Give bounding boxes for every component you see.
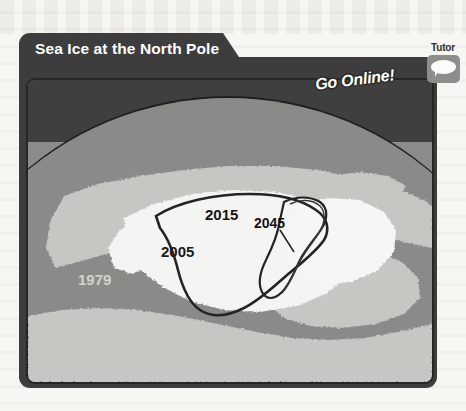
- tutor-icon-box: [427, 55, 460, 83]
- speech-bubble-icon: [431, 60, 456, 74]
- map-plate[interactable]: 1979 2005 2015 2045: [26, 78, 434, 384]
- year-label-2015: 2015: [205, 206, 238, 223]
- year-label-2045: 2045: [254, 215, 285, 231]
- tutor-button[interactable]: Tutor: [423, 42, 463, 83]
- year-label-1979: 1979: [78, 271, 111, 288]
- figure-panel: Sea Ice at the North Pole Go Online! Tut…: [19, 33, 437, 388]
- tutor-label: Tutor: [423, 42, 463, 54]
- page-title: Sea Ice at the North Pole: [35, 40, 219, 58]
- title-tab: Sea Ice at the North Pole: [19, 33, 241, 67]
- map-inner: 1979 2005 2015 2045: [28, 80, 432, 382]
- year-label-2005: 2005: [161, 243, 194, 260]
- map-graphics: [28, 80, 432, 382]
